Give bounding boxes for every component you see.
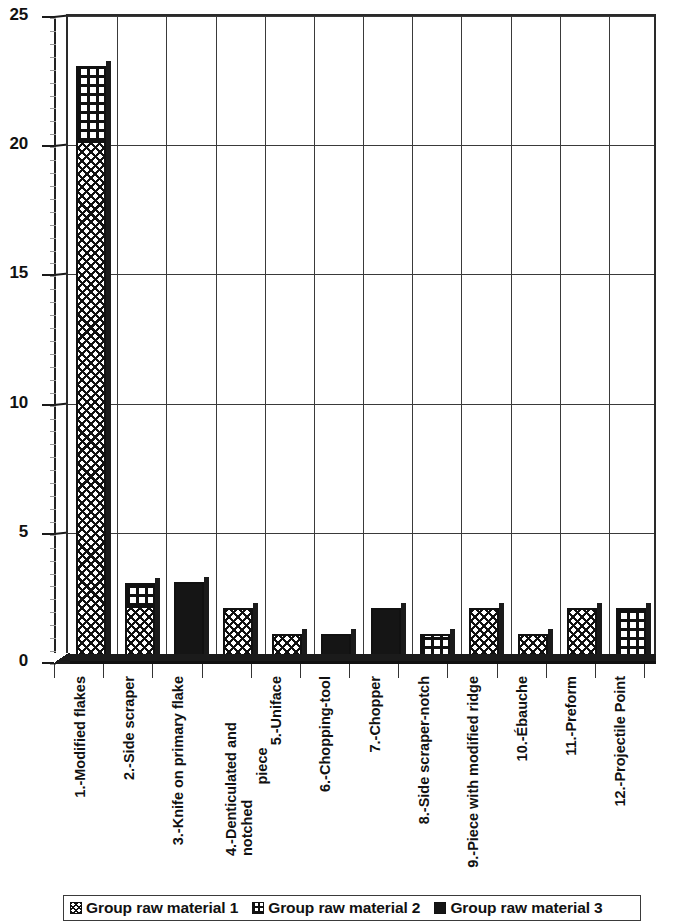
- x-axis-label: 10.-Ébauche: [515, 676, 531, 761]
- y-axis-tick-label: 20: [9, 135, 28, 152]
- bar-series-group: [66, 14, 656, 660]
- x-axis-label: 5.-Uniface: [269, 676, 285, 745]
- legend-label: Group raw material 3: [450, 899, 602, 917]
- bar-slot: [263, 14, 312, 660]
- bar-slot: [558, 14, 607, 660]
- legend-label: Group raw material 2: [268, 899, 420, 917]
- bar-segment: [76, 143, 106, 660]
- y-axis-tick-label: 25: [9, 6, 28, 23]
- bar-segment: [567, 608, 597, 660]
- x-axis-label-line: 12.-Projectile Point: [612, 676, 628, 807]
- bar-segment: [174, 582, 204, 660]
- bar-slot: [509, 14, 558, 660]
- x-axis-label-line: 7.-Chopper: [367, 676, 383, 753]
- bar-stack[interactable]: [469, 608, 499, 660]
- x-axis-label-line: 1.-Modified flakes: [72, 676, 88, 798]
- legend-swatch-grid-icon: [252, 902, 264, 914]
- x-axis-label: 12.-Projectile Point: [613, 676, 629, 807]
- bar-segment: [125, 583, 155, 609]
- x-axis-labels: 1.-Modified flakes2.-Side scraper3.-Knif…: [0, 676, 693, 876]
- bar-stack[interactable]: [223, 608, 253, 660]
- y-axis: 0510152025: [0, 0, 48, 680]
- x-axis-label-line: 4.-Denticulated and notched: [223, 722, 255, 856]
- x-axis-label: 1.-Modified flakes: [73, 676, 89, 798]
- x-axis-label-line: 8.-Side scraper-notch: [416, 676, 432, 824]
- bar-slot: [115, 14, 164, 660]
- bar-slot: [607, 14, 656, 660]
- y-axis-tick-label: 10: [9, 393, 28, 410]
- bar-slot: [164, 14, 213, 660]
- bar-slot: [312, 14, 361, 660]
- x-axis-label: 3.-Knife on primary flake: [171, 676, 187, 845]
- bar-stack[interactable]: [174, 582, 204, 660]
- bar-segment: [469, 608, 499, 660]
- x-axis-label: 4.-Denticulated and notchedpiece: [224, 676, 271, 856]
- x-axis-label-line: 9.-Piece with modified ridge: [465, 676, 481, 868]
- bar-segment: [371, 608, 401, 660]
- x-axis-label-line: 11.-Preform: [563, 676, 579, 756]
- bar-slot: [214, 14, 263, 660]
- x-axis-label: 7.-Chopper: [368, 676, 384, 753]
- chart-figure: 0510152025 1.-Modified flakes2.-Side scr…: [0, 0, 693, 923]
- legend-swatch-crosshatch-icon: [70, 902, 82, 914]
- bar-stack[interactable]: [371, 608, 401, 660]
- bar-segment: [616, 608, 646, 660]
- bar-slot: [66, 14, 115, 660]
- legend-label: Group raw material 1: [86, 899, 238, 917]
- legend-item[interactable]: Group raw material 3: [434, 899, 602, 917]
- x-axis-label-line: 2.-Side scraper: [121, 676, 137, 780]
- bar-segment: [223, 608, 253, 660]
- bar-stack[interactable]: [76, 66, 106, 660]
- x-axis-label: 9.-Piece with modified ridge: [466, 676, 482, 868]
- bar-segment: [76, 66, 106, 144]
- x-axis-label-line: 5.-Uniface: [268, 676, 284, 745]
- y-axis-minor-ticks: [50, 14, 60, 664]
- y-axis-tick-label: 5: [19, 522, 28, 539]
- legend-swatch-solid-icon: [434, 902, 446, 914]
- x-axis-label: 11.-Preform: [564, 676, 580, 756]
- chart-legend: Group raw material 1Group raw material 2…: [63, 895, 641, 921]
- x-axis-label-line: 10.-Ébauche: [514, 676, 530, 761]
- bar-stack[interactable]: [616, 608, 646, 660]
- x-axis-label: 8.-Side scraper-notch: [417, 676, 433, 824]
- legend-item[interactable]: Group raw material 2: [252, 899, 420, 917]
- bar-segment: [125, 608, 155, 660]
- x-axis-label: 6.-Chopping-tool: [318, 676, 334, 792]
- axis-floor-corner: [54, 653, 70, 664]
- x-axis-label-line: 6.-Chopping-tool: [317, 676, 333, 792]
- bar-stack[interactable]: [567, 608, 597, 660]
- bar-slot: [361, 14, 410, 660]
- x-axis-label-line: 3.-Knife on primary flake: [170, 676, 186, 845]
- bar-slot: [459, 14, 508, 660]
- y-axis-tick-label: 15: [9, 264, 28, 281]
- bar-slot: [410, 14, 459, 660]
- bar-stack[interactable]: [125, 583, 155, 661]
- x-axis-label: 2.-Side scraper: [122, 676, 138, 780]
- legend-item[interactable]: Group raw material 1: [70, 899, 238, 917]
